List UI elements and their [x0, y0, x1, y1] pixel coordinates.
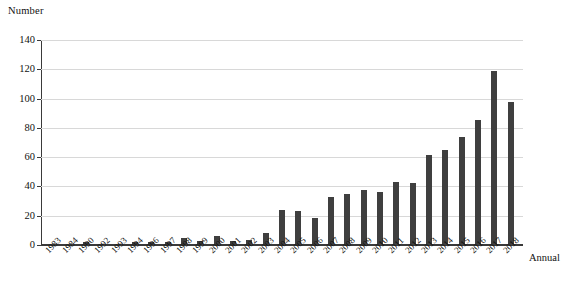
bar-cell — [127, 40, 143, 245]
bar — [442, 150, 448, 245]
bar-cell — [339, 40, 355, 245]
y-axis-tick-label: 140 — [1, 35, 35, 46]
x-axis-title: Annual — [529, 252, 560, 263]
x-tick-cell: 2015 — [454, 246, 470, 286]
x-tick-cell: 2010 — [372, 246, 388, 286]
x-tick-cell: 1992 — [94, 246, 110, 286]
bar-cell — [437, 40, 453, 245]
bar-cell — [372, 40, 388, 245]
bar — [508, 102, 514, 245]
x-tick-cell: 2001 — [225, 246, 241, 286]
x-tick-cell: 2014 — [437, 246, 453, 286]
y-axis-tick-label: 80 — [1, 123, 35, 134]
x-tick-cell: 2004 — [274, 246, 290, 286]
bar-cell — [257, 40, 273, 245]
plot-area — [41, 40, 523, 245]
x-tick-cell: 1997 — [159, 246, 175, 286]
bar-cell — [307, 40, 323, 245]
bar-cell — [143, 40, 159, 245]
y-axis-title: Number — [8, 5, 44, 16]
bar-cell — [110, 40, 126, 245]
bar-cell — [356, 40, 372, 245]
x-tick-cell: 2008 — [339, 246, 355, 286]
x-tick-cell: 2006 — [307, 246, 323, 286]
x-tick-cell: 2007 — [323, 246, 339, 286]
y-axis-tick-label: 100 — [1, 94, 35, 105]
bar-cell — [388, 40, 404, 245]
x-tick-cell: 2002 — [241, 246, 257, 286]
bar-cell — [486, 40, 502, 245]
y-axis-tick-label: 60 — [1, 152, 35, 163]
bar-cell — [241, 40, 257, 245]
bar — [475, 120, 481, 245]
y-axis-tick-label: 20 — [1, 211, 35, 222]
x-tick-cell: 1984 — [61, 246, 77, 286]
bar-cell — [421, 40, 437, 245]
x-tick-cell: 2017 — [486, 246, 502, 286]
x-tick-cell: 1998 — [176, 246, 192, 286]
bar-cell — [503, 40, 519, 245]
x-tick-cell: 2016 — [470, 246, 486, 286]
x-tick-cell: 2011 — [388, 246, 404, 286]
bar — [426, 155, 432, 245]
x-tick-cell: 1983 — [45, 246, 61, 286]
x-tick-cell: 1990 — [78, 246, 94, 286]
bar-cell — [323, 40, 339, 245]
x-tick-cell: 1996 — [143, 246, 159, 286]
x-tick-cell: 2003 — [257, 246, 273, 286]
bar-cell — [225, 40, 241, 245]
bar-cell — [405, 40, 421, 245]
bar-cell — [274, 40, 290, 245]
x-tick-cell: 1993 — [110, 246, 126, 286]
x-tick-cell: 2005 — [290, 246, 306, 286]
bar-cell — [78, 40, 94, 245]
bar-cell — [45, 40, 61, 245]
x-tick-cell: 2009 — [356, 246, 372, 286]
bar-cell — [94, 40, 110, 245]
bar — [459, 137, 465, 245]
bar-series — [41, 40, 523, 245]
x-axis-tick-labels: 1983198419901992199319941996199719981999… — [41, 246, 523, 286]
y-axis-tick-label: 120 — [1, 64, 35, 75]
bar-cell — [454, 40, 470, 245]
bar-cell — [176, 40, 192, 245]
bar-cell — [290, 40, 306, 245]
bar-cell — [192, 40, 208, 245]
bar-chart: Number 020406080100120140 19831984199019… — [0, 0, 573, 286]
x-tick-cell: 2012 — [405, 246, 421, 286]
x-tick-cell: 1999 — [192, 246, 208, 286]
bar-cell — [208, 40, 224, 245]
x-tick-cell: 1994 — [127, 246, 143, 286]
bar — [491, 71, 497, 245]
bar-cell — [61, 40, 77, 245]
y-axis-tick-label: 0 — [1, 240, 35, 251]
x-tick-cell: 2013 — [421, 246, 437, 286]
bar-cell — [470, 40, 486, 245]
y-axis-tick-label: 40 — [1, 181, 35, 192]
x-tick-cell: 2018 — [503, 246, 519, 286]
bar-cell — [159, 40, 175, 245]
x-tick-cell: 2000 — [208, 246, 224, 286]
